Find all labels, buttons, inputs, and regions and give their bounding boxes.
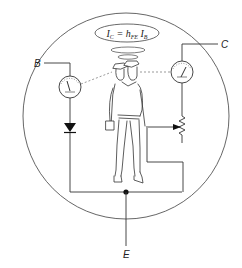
base-diode-icon xyxy=(64,123,76,133)
base-lead-wire xyxy=(44,63,70,76)
left-gaze-dashed-line xyxy=(81,72,112,84)
hand-return-wire xyxy=(147,128,183,192)
collector-current-meter xyxy=(171,61,193,83)
thought-halo-small xyxy=(118,55,138,59)
base-label: B xyxy=(34,58,41,69)
variable-resistor-icon xyxy=(179,116,185,135)
operator-figure-illustration xyxy=(106,61,145,183)
emitter-label: E xyxy=(123,249,130,260)
formula-text: IC = hFE IB xyxy=(106,28,148,40)
base-return-wire xyxy=(70,133,182,192)
transistor-analogy-diagram: IC = hFE IB B C E xyxy=(0,0,242,268)
diagram-canvas: IC = hFE IB B C E xyxy=(0,0,242,268)
collector-lead-wire xyxy=(182,44,218,61)
base-current-meter xyxy=(59,76,81,98)
thought-halo-large xyxy=(111,47,145,53)
collector-label: C xyxy=(221,39,229,50)
wiper-arrow-icon xyxy=(173,124,181,130)
